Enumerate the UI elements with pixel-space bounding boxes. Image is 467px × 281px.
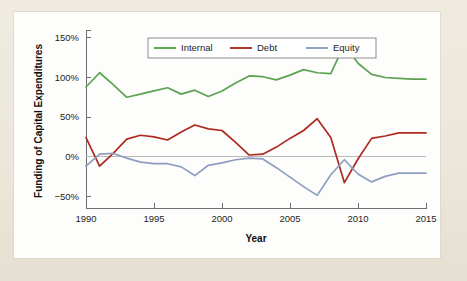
line-chart: −50%0%50%100%150% 1990199520002005201020… [14,12,440,258]
figure-root: −50%0%50%100%150% 1990199520002005201020… [0,0,467,281]
x-tick-label: 2005 [279,213,300,224]
chart-legend: InternalDebtEquity [148,38,376,58]
y-tick-label: 50% [60,111,80,122]
x-tick-label: 2000 [211,213,232,224]
y-axis-line [86,30,91,208]
x-axis-title: Year [245,233,266,244]
y-tick-label: 0% [65,151,79,162]
y-tick-label: 150% [55,32,80,43]
y-axis-ticks [86,38,91,196]
x-axis-ticks [86,203,426,208]
x-axis-line [86,203,426,208]
series-line-equity [86,153,426,195]
y-axis-tick-labels: −50%0%50%100%150% [54,32,79,201]
legend-label-debt: Debt [257,42,277,53]
y-axis-title: Funding of Capital Expenditures [33,44,44,198]
series-lines [86,44,426,195]
x-tick-label: 1990 [75,213,96,224]
x-tick-label: 2010 [347,213,368,224]
legend-label-equity: Equity [333,42,360,53]
y-tick-label: −50% [54,191,79,202]
figure-panel: −50%0%50%100%150% 1990199520002005201020… [14,12,440,258]
legend-label-internal: Internal [181,42,213,53]
x-tick-label: 1995 [143,213,164,224]
x-tick-label: 2015 [415,213,436,224]
y-tick-label: 100% [55,72,80,83]
x-axis-tick-labels: 199019952000200520102015 [75,213,436,224]
series-line-debt [86,119,426,183]
